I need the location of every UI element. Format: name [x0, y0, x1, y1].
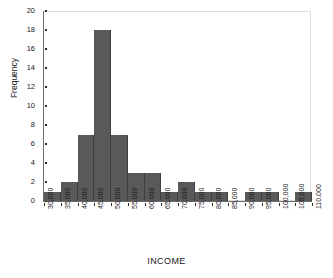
x-axis-title: INCOME — [0, 256, 333, 266]
y-axis-tick-label: 14 — [27, 62, 35, 73]
x-axis-tick-mark — [44, 203, 45, 206]
y-axis-tick-label: 12 — [27, 81, 35, 92]
histogram-chart: 02468101214161820 Frequency 30,00035,000… — [0, 0, 333, 278]
x-axis-tick-label: 95,000 — [265, 188, 273, 209]
y-axis-tick-label: 4 — [31, 157, 35, 168]
x-axis-tick-label: 70,000 — [181, 188, 189, 209]
x-axis-tick-mark — [94, 203, 95, 206]
x-axis-tick-mark — [78, 203, 79, 206]
x-axis-tick-mark — [161, 203, 162, 206]
y-axis-tick: 18 — [0, 30, 43, 31]
x-axis-tick-label: 55,000 — [131, 188, 139, 209]
x-axis-tick-label: 45,000 — [97, 188, 105, 209]
y-axis-tick: 8 — [0, 125, 43, 126]
y-axis-tick: 12 — [0, 87, 43, 88]
y-axis-tick: 2 — [0, 182, 43, 183]
y-axis-tick-label: 10 — [27, 100, 35, 111]
y-axis-tick: 6 — [0, 144, 43, 145]
x-axis-tick-label: 50,000 — [114, 188, 122, 209]
x-axis-tick-label: 100,000 — [282, 184, 290, 209]
x-axis-tick-mark — [145, 203, 146, 206]
x-axis-tick-mark — [228, 203, 229, 206]
x-axis-tick-mark — [279, 203, 280, 206]
x-axis-tick-mark — [195, 203, 196, 206]
histogram-bar — [94, 30, 111, 201]
x-axis-tick-label: 60,000 — [148, 188, 156, 209]
x-axis-tick-label: 85,000 — [231, 188, 239, 209]
y-axis-tick: 14 — [0, 68, 43, 69]
x-axis-tick-label: 75,000 — [198, 188, 206, 209]
x-axis-tick-mark — [111, 203, 112, 206]
x-axis-tick-label: 30,000 — [47, 188, 55, 209]
y-axis-title: Frequency — [9, 28, 19, 128]
y-axis-tick-label: 0 — [31, 195, 35, 206]
y-axis-tick-label: 18 — [27, 24, 35, 35]
y-axis-tick: 4 — [0, 163, 43, 164]
x-axis-tick-mark — [295, 203, 296, 206]
x-axis-tick-mark — [262, 203, 263, 206]
x-axis-tick-mark — [212, 203, 213, 206]
x-axis-tick-mark — [245, 203, 246, 206]
y-axis-tick: 20 — [0, 11, 43, 12]
y-axis-tick-label: 16 — [27, 43, 35, 54]
x-axis-tick-mark — [178, 203, 179, 206]
y-axis-tick-label: 8 — [31, 119, 35, 130]
y-axis-tick: 16 — [0, 49, 43, 50]
x-axis-tick-label: 40,000 — [81, 188, 89, 209]
y-axis-tick: 0 — [0, 201, 43, 202]
y-axis-tick-label: 20 — [27, 5, 35, 16]
y-axis-tick-label: 6 — [31, 138, 35, 149]
x-axis-tick-label: 105,000 — [298, 184, 306, 209]
x-axis-tick-mark — [61, 203, 62, 206]
y-axis-tick-label: 2 — [31, 176, 35, 187]
y-axis-tick: 10 — [0, 106, 43, 107]
x-axis-tick-label: 35,000 — [64, 188, 72, 209]
x-axis-tick-label: 80,000 — [215, 188, 223, 209]
bars-container — [44, 11, 312, 201]
x-axis-tick-mark — [312, 203, 313, 206]
x-axis-tick-label: 90,000 — [248, 188, 256, 209]
x-axis-tick-mark — [128, 203, 129, 206]
x-axis-tick-label: 65,000 — [164, 188, 172, 209]
x-axis-tick-label: 110,000 — [315, 184, 323, 209]
